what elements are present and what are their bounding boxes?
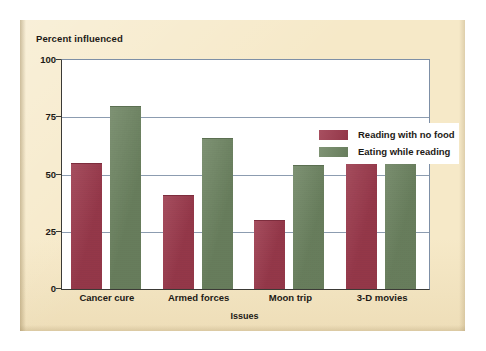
bar-moon-trip-eating-while-reading — [293, 165, 324, 289]
legend-item: Eating while reading — [319, 143, 455, 160]
x-tick-label-cancer-cure: Cancer cure — [61, 292, 153, 303]
legend-label: Reading with no food — [358, 129, 455, 140]
y-tick-label-25: 25 — [30, 225, 56, 236]
y-tick-label-100: 100 — [30, 54, 56, 65]
legend-label: Eating while reading — [358, 146, 450, 157]
y-tick-label-75: 75 — [30, 111, 56, 122]
x-tick-label-armed-forces: Armed forces — [153, 292, 245, 303]
x-axis-title: Issues — [61, 311, 428, 321]
bar-cancer-cure-reading-with-no-food — [71, 163, 102, 289]
chart-legend: Reading with no food Eating while readin… — [315, 123, 459, 164]
bar-armed-forces-eating-while-reading — [202, 138, 233, 289]
plot-area: Reading with no food Eating while readin… — [61, 59, 430, 290]
y-axis-ticks: 0255075100 — [28, 59, 56, 288]
chart-page: Percent influenced 0255075100 Reading wi… — [0, 0, 486, 351]
page-edge-right — [459, 20, 465, 331]
bar-moon-trip-reading-with-no-food — [254, 220, 285, 289]
page-gutter-shadow — [20, 20, 26, 331]
bar-cancer-cure-eating-while-reading — [110, 106, 141, 289]
y-tick-label-50: 50 — [30, 168, 56, 179]
legend-swatch-reading-with-no-food — [319, 130, 348, 140]
y-tick-label-0: 0 — [30, 283, 56, 294]
legend-swatch-eating-while-reading — [319, 147, 348, 157]
page-edge-bottom — [20, 325, 465, 331]
x-tick-label-3-d-movies: 3-D movies — [336, 292, 428, 303]
bar-3-d-movies-reading-with-no-food — [346, 152, 377, 289]
legend-item: Reading with no food — [319, 126, 455, 143]
y-axis-title: Percent influenced — [36, 33, 123, 44]
bar-armed-forces-reading-with-no-food — [163, 195, 194, 289]
x-tick-label-moon-trip: Moon trip — [245, 292, 337, 303]
